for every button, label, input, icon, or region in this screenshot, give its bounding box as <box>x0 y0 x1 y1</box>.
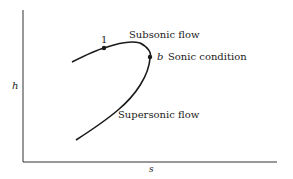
y-axis-label: h <box>12 80 18 91</box>
x-axis-label: s <box>149 164 154 174</box>
subsonic-flow-label: Subsonic flow <box>129 29 200 40</box>
point-1-marker <box>102 46 106 50</box>
point-1-label: 1 <box>101 34 107 45</box>
sonic-condition-label: Sonic condition <box>168 51 247 62</box>
fanno-curve <box>72 42 151 140</box>
point-b-label: b <box>157 51 163 62</box>
point-b-marker <box>148 55 152 59</box>
supersonic-flow-label: Supersonic flow <box>118 109 200 120</box>
hs-diagram: 1 Subsonic flow b Sonic condition Supers… <box>0 0 293 179</box>
diagram-svg: 1 Subsonic flow b Sonic condition Supers… <box>0 0 293 179</box>
